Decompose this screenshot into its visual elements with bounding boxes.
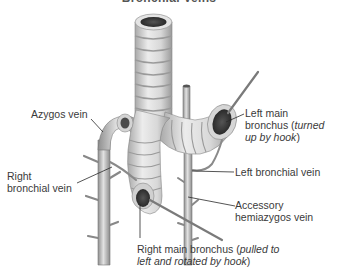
label-accessory-hemiazygos-vein: Accessory hemiazygos vein — [235, 199, 313, 223]
azygos-arch-end — [117, 114, 133, 132]
trachea — [135, 14, 172, 122]
label-left-bronchial-vein: Left bronchial vein — [235, 166, 320, 178]
label-left-main-bronchus: Left main bronchus (turned up by hook) — [245, 107, 324, 143]
label-right-bronchial-vein: Right bronchial vein — [7, 170, 72, 194]
right-main-bronchus — [128, 110, 170, 214]
vein-stub — [183, 84, 190, 120]
label-right-main-bronchus: Right main bronchus (pulled to left and … — [137, 243, 279, 267]
label-azygos-vein: Azygos vein — [31, 108, 88, 120]
